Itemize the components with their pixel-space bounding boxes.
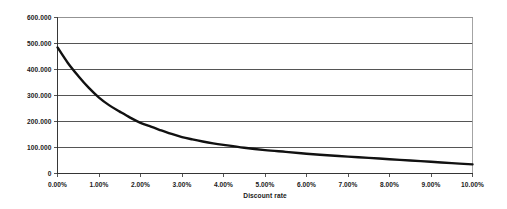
x-tick-label: 0.00% (48, 181, 67, 188)
x-tick-label: 8.00% (380, 181, 399, 188)
y-tick-label: 400.000 (27, 66, 52, 73)
x-axis-title: Discount rate (243, 192, 287, 199)
x-tick-label: 9.00% (421, 181, 440, 188)
y-tick-label: 200.000 (27, 118, 52, 125)
y-tick-label: 500.000 (27, 40, 52, 47)
chart-container: 0100.000200.000300.000400.000500.000600.… (0, 0, 507, 209)
x-tick-label: 4.00% (214, 181, 233, 188)
x-tick-label: 6.00% (297, 181, 316, 188)
x-tick-label: 7.00% (338, 181, 357, 188)
x-tick-label: 1.00% (89, 181, 108, 188)
x-tick-label: 2.00% (131, 181, 150, 188)
x-tick-label: 5.00% (255, 181, 274, 188)
chart-canvas: 0100.000200.000300.000400.000500.000600.… (0, 0, 507, 209)
x-tick-label: 10.00% (461, 181, 484, 188)
y-tick-label: 0 (48, 170, 52, 177)
y-tick-label: 100.000 (27, 144, 52, 151)
y-tick-label: 300.000 (27, 92, 52, 99)
x-tick-label: 3.00% (172, 181, 191, 188)
y-tick-label: 600.000 (27, 14, 52, 21)
chart-background (0, 0, 507, 209)
